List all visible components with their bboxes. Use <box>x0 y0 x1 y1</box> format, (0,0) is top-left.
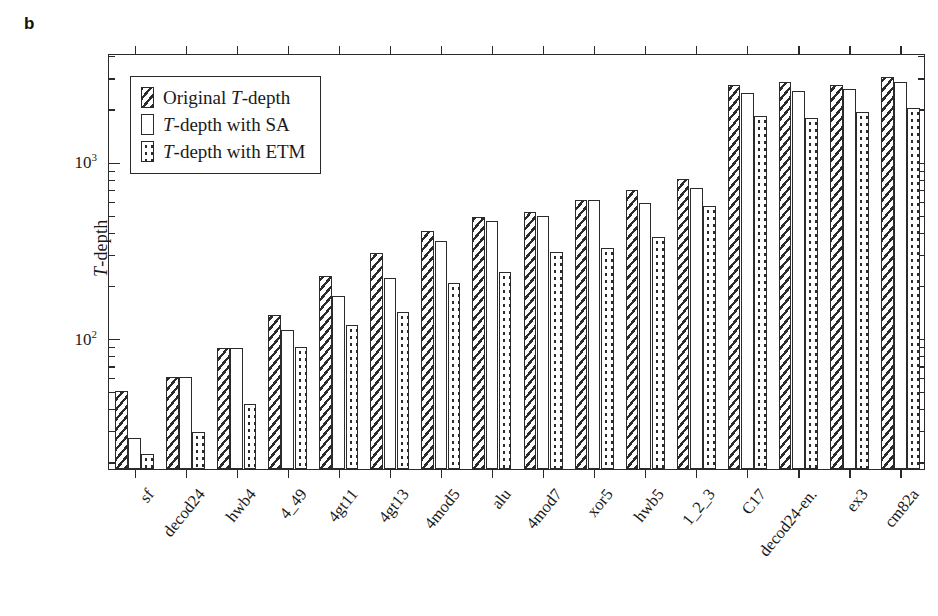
x-tick-top <box>441 46 442 55</box>
bar-dots <box>907 108 920 469</box>
bar-hatch <box>575 200 588 469</box>
bar-hatch <box>268 315 281 469</box>
bar-group <box>830 53 869 469</box>
legend-item: T-depth with ETM <box>141 138 306 165</box>
bar-group <box>524 53 563 469</box>
bar-plain <box>281 330 294 469</box>
x-tick-top <box>645 46 646 55</box>
x-tick <box>390 469 391 478</box>
bar-group <box>421 53 460 469</box>
x-tick-top <box>849 46 850 55</box>
bar-plain <box>230 348 243 469</box>
x-tick <box>747 469 748 478</box>
bar-group <box>881 53 920 469</box>
bar-hatch <box>524 212 537 469</box>
x-tick-top <box>492 46 493 55</box>
bar-dots <box>346 325 359 469</box>
legend-label: Original T-depth <box>163 87 290 109</box>
bar-hatch <box>830 85 843 469</box>
x-tick <box>798 469 799 478</box>
x-tick <box>339 469 340 478</box>
bar-hatch <box>881 77 894 469</box>
x-tick-top <box>390 46 391 55</box>
bar-hatch <box>370 253 383 469</box>
bar-group <box>319 53 358 469</box>
bar-hatch <box>115 391 128 469</box>
bar-dots <box>601 248 614 469</box>
bar-group <box>575 53 614 469</box>
legend-label: T-depth with SA <box>163 114 290 136</box>
bar-plain <box>690 188 703 469</box>
bar-dots <box>805 118 818 469</box>
x-tick-top <box>798 46 799 55</box>
bar-dots <box>244 404 257 469</box>
bar-plain <box>792 91 805 469</box>
bar-hatch <box>472 217 485 469</box>
bar-plain <box>435 241 448 470</box>
chart-plot-area: T-depth sfdecod24hwb44_494gt114gt134mod5… <box>108 54 925 470</box>
bar-hatch <box>217 348 230 469</box>
bar-hatch <box>677 179 690 469</box>
x-tick <box>645 469 646 478</box>
y-tick-label: 103 <box>43 151 97 173</box>
bar-group <box>472 53 511 469</box>
x-tick <box>849 469 850 478</box>
legend-swatch-dots <box>141 141 154 162</box>
bar-dots <box>652 237 665 469</box>
x-tick-top <box>747 46 748 55</box>
x-tick-top <box>696 46 697 55</box>
bar-plain <box>332 296 345 469</box>
bar-hatch <box>319 276 332 469</box>
bar-dots <box>754 116 767 469</box>
bar-plain <box>588 200 601 469</box>
x-tick <box>441 469 442 478</box>
x-tick <box>186 469 187 478</box>
panel-label: b <box>24 14 34 34</box>
x-tick <box>492 469 493 478</box>
bar-hatch <box>728 85 741 469</box>
y-axis-label: T-depth <box>91 220 112 277</box>
legend-swatch-hatch <box>141 87 154 108</box>
bar-hatch <box>626 190 639 469</box>
bar-group <box>779 53 818 469</box>
bar-group <box>626 53 665 469</box>
x-tick <box>135 469 136 478</box>
bar-plain <box>894 82 907 469</box>
bar-hatch <box>166 377 179 469</box>
legend-item: Original T-depth <box>141 84 306 111</box>
bar-dots <box>295 347 308 469</box>
x-tick <box>543 469 544 478</box>
legend-item: T-depth with SA <box>141 111 306 138</box>
y-axis-label-italic: T <box>91 267 111 277</box>
bar-hatch <box>421 231 434 469</box>
bar-group <box>370 53 409 469</box>
bar-plain <box>639 203 652 469</box>
bar-dots <box>141 454 154 469</box>
bar-dots <box>499 272 512 469</box>
legend-label: T-depth with ETM <box>163 141 306 163</box>
bar-plain <box>179 377 192 469</box>
x-tick-top <box>900 46 901 55</box>
x-tick <box>237 469 238 478</box>
bar-group <box>677 53 716 469</box>
bar-hatch <box>779 82 792 469</box>
bar-dots <box>397 312 410 469</box>
x-tick-top <box>339 46 340 55</box>
bar-plain <box>537 216 550 469</box>
x-tick-top <box>543 46 544 55</box>
x-tick <box>594 469 595 478</box>
x-tick-top <box>594 46 595 55</box>
x-tick <box>900 469 901 478</box>
bar-group <box>728 53 767 469</box>
y-axis-label-rest: -depth <box>91 220 111 267</box>
x-tick-top <box>288 46 289 55</box>
bar-plain <box>128 438 141 469</box>
x-tick <box>696 469 697 478</box>
bar-dots <box>448 283 461 469</box>
bar-plain <box>384 278 397 469</box>
bar-plain <box>741 93 754 469</box>
x-tick-top <box>237 46 238 55</box>
bar-dots <box>703 206 716 469</box>
bar-plain <box>843 89 856 469</box>
y-tick-label: 102 <box>43 328 97 350</box>
